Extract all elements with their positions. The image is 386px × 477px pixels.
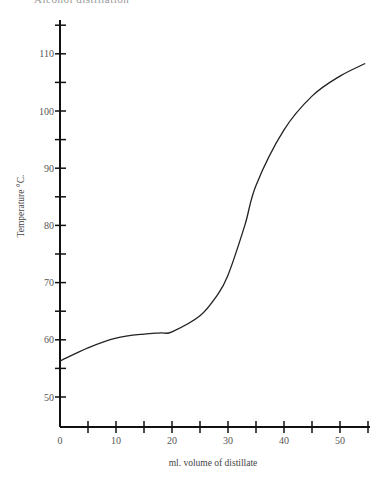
y-tick-label: 60 bbox=[44, 334, 54, 345]
x-tick-label: 10 bbox=[111, 435, 121, 446]
y-tick-label: 70 bbox=[44, 277, 54, 288]
x-tick-label: 0 bbox=[58, 435, 63, 446]
y-axis-label: Temperature °C. bbox=[16, 175, 26, 238]
y-tick-label: 90 bbox=[44, 163, 54, 174]
x-tick-label: 40 bbox=[279, 435, 289, 446]
x-axis-label: ml. volume of distillate bbox=[169, 458, 258, 468]
y-tick-label: 80 bbox=[44, 220, 54, 231]
tick-labels: 506070809010011001020304050 bbox=[39, 48, 345, 446]
x-tick-label: 50 bbox=[335, 435, 345, 446]
distillation-curve bbox=[60, 64, 365, 361]
ticks bbox=[55, 25, 368, 433]
y-tick-label: 110 bbox=[39, 48, 54, 59]
y-tick-label: 100 bbox=[39, 106, 54, 117]
x-tick-label: 30 bbox=[223, 435, 233, 446]
x-tick-label: 20 bbox=[167, 435, 177, 446]
axes bbox=[60, 20, 370, 427]
y-tick-label: 50 bbox=[44, 392, 54, 403]
distillation-chart: 506070809010011001020304050 ml. volume o… bbox=[0, 0, 386, 477]
